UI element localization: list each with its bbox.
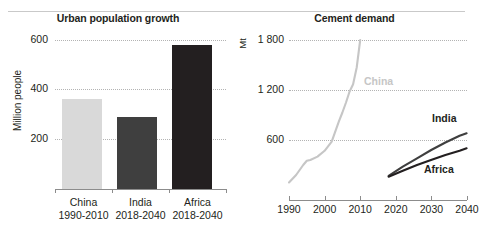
category-label-africa: Africa 2018-2040 bbox=[169, 196, 226, 222]
series-label-china: China bbox=[364, 75, 393, 87]
category-name-africa: Africa bbox=[184, 196, 211, 208]
category-name-china: China bbox=[70, 196, 97, 208]
cement-x-label-2020: 2020 bbox=[376, 203, 416, 215]
bar-china[interactable] bbox=[62, 99, 102, 189]
category-range-india: 2018-2040 bbox=[112, 209, 169, 222]
category-name-india: India bbox=[129, 196, 152, 208]
urban-x-tick-end bbox=[226, 189, 227, 193]
urban-y-tick-600: 600 bbox=[10, 33, 48, 45]
chart-panel-cement-demand: Cement demand Mt 600 1 200 1 800 China I… bbox=[236, 0, 473, 233]
urban-x-tick-start bbox=[55, 189, 56, 193]
bar-india[interactable] bbox=[117, 117, 157, 189]
cement-x-tick-2020 bbox=[396, 196, 397, 200]
cement-x-label-2030: 2030 bbox=[411, 203, 451, 215]
bar-africa[interactable] bbox=[172, 45, 212, 189]
urban-plot-area bbox=[55, 39, 226, 189]
urban-x-tick-1 bbox=[112, 189, 113, 193]
cement-x-tick-1990 bbox=[289, 196, 290, 200]
cement-x-tick-2000 bbox=[325, 196, 326, 200]
urban-y-tick-200: 200 bbox=[10, 132, 48, 144]
cement-x-tick-2040 bbox=[467, 196, 468, 200]
cement-x-label-1990: 1990 bbox=[269, 203, 309, 215]
cement-x-axis-line bbox=[289, 200, 467, 201]
series-label-india: India bbox=[432, 112, 457, 124]
cement-x-label-2040: 2040 bbox=[447, 203, 483, 215]
category-label-india: India 2018-2040 bbox=[112, 196, 169, 222]
urban-y-tick-400: 400 bbox=[10, 82, 48, 94]
series-line-china[interactable] bbox=[289, 40, 360, 183]
urban-x-tick-2 bbox=[169, 189, 170, 193]
category-range-africa: 2018-2040 bbox=[169, 209, 226, 222]
cement-x-label-2010: 2010 bbox=[340, 203, 380, 215]
chart-panel-urban-population: Urban population growth Million people 2… bbox=[0, 0, 236, 233]
cement-x-tick-2010 bbox=[360, 196, 361, 200]
urban-x-axis-line bbox=[55, 189, 226, 190]
cement-x-label-2000: 2000 bbox=[305, 203, 345, 215]
category-range-china: 1990-2010 bbox=[55, 209, 112, 222]
series-label-africa: Africa bbox=[424, 163, 454, 175]
urban-chart-title: Urban population growth bbox=[0, 12, 236, 24]
cement-x-tick-2030 bbox=[431, 196, 432, 200]
category-label-china: China 1990-2010 bbox=[55, 196, 112, 222]
